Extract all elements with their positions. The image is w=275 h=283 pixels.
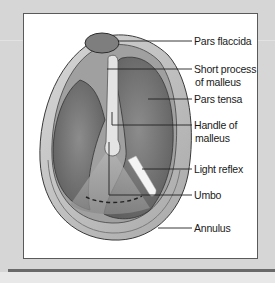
label-short-process-line2: of malleus: [195, 76, 241, 88]
label-short-process-line1: Short process: [194, 63, 256, 75]
label-handle-of-malleus-line2: malleus: [195, 132, 230, 144]
label-pars-flaccida: Pars flaccida: [194, 35, 252, 47]
label-umbo: Umbo: [194, 189, 221, 201]
bottom-strip: [0, 272, 275, 283]
pars-flaccida-region: [85, 33, 119, 53]
label-pars-tensa: Pars tensa: [194, 93, 242, 105]
label-light-reflex: Light reflex: [194, 163, 243, 175]
label-handle-of-malleus-line1: Handle of: [194, 119, 237, 131]
label-annulus: Annulus: [194, 222, 231, 234]
